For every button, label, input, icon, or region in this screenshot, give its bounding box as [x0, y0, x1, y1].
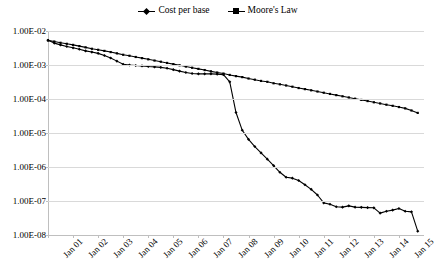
series-marker: [360, 206, 363, 209]
series-marker: [166, 62, 168, 64]
gridline: [48, 235, 424, 236]
x-axis-tick-label: Jan 01: [62, 237, 85, 260]
series-marker: [222, 72, 224, 74]
gridline: [48, 99, 424, 100]
x-axis-tick-label: Jan 08: [237, 237, 260, 260]
x-axis-tick-label: Jan 06: [187, 237, 210, 260]
legend-marker-square-icon: [228, 7, 245, 16]
series-marker: [159, 66, 162, 69]
series-marker: [110, 51, 112, 53]
legend-label-cost-per-base: Cost per base: [158, 6, 209, 16]
series-marker: [235, 75, 237, 77]
series-marker: [191, 67, 193, 69]
series-marker: [410, 210, 413, 213]
plot-area: [48, 31, 424, 235]
series-marker: [78, 45, 80, 47]
series-marker: [216, 71, 218, 73]
series-marker: [65, 45, 68, 48]
series-marker: [153, 59, 155, 61]
series-marker: [404, 210, 407, 213]
x-axis-tick: [123, 235, 124, 238]
chart-legend: Cost per base Moore's Law: [0, 3, 436, 19]
x-axis-tick-label: Jan 07: [212, 237, 235, 260]
series-marker: [234, 111, 237, 114]
series-marker: [160, 61, 162, 63]
x-axis-tick-label: Jan 04: [137, 237, 160, 260]
x-axis-labels: Jan 01Jan 02Jan 03Jan 04Jan 05Jan 06Jan …: [48, 237, 424, 279]
y-axis-tick-label: 1.00E-02: [2, 27, 46, 36]
x-axis-tick: [73, 235, 74, 238]
series-marker: [128, 55, 130, 57]
series-marker: [335, 94, 337, 96]
series-marker: [310, 89, 312, 91]
series-marker: [178, 70, 181, 73]
series-marker: [291, 86, 293, 88]
x-axis-tick: [223, 235, 224, 238]
series-marker: [397, 207, 400, 210]
x-axis-tick-label: Jan 13: [363, 237, 386, 260]
legend-item-moores-law: Moore's Law: [228, 6, 298, 16]
x-axis-tick-label: Jan 14: [388, 237, 411, 260]
x-axis-tick: [274, 235, 275, 238]
x-axis-tick-label: Jan 09: [262, 237, 285, 260]
series-marker: [116, 52, 118, 54]
series-marker: [354, 206, 357, 209]
legend-marker-diamond-icon: [138, 7, 155, 16]
series-marker: [103, 54, 106, 57]
series-marker: [209, 72, 212, 75]
y-axis-labels: 1.00E-021.00E-031.00E-041.00E-051.00E-06…: [0, 31, 46, 235]
series-marker: [366, 206, 369, 209]
y-axis-tick-label: 1.00E-03: [2, 61, 46, 70]
series-marker: [84, 49, 87, 52]
x-axis-tick-label: Jan 10: [287, 237, 310, 260]
series-marker: [285, 84, 287, 86]
x-axis-tick-label: Jan 15: [413, 237, 436, 260]
series-marker: [78, 48, 81, 51]
x-axis-tick-label: Jan 05: [162, 237, 185, 260]
series-marker: [203, 72, 206, 75]
x-axis-tick: [48, 235, 49, 238]
series-marker: [291, 177, 294, 180]
series-marker: [97, 52, 100, 55]
series-marker: [329, 93, 331, 95]
series-marker: [385, 210, 388, 213]
x-axis-tick: [148, 235, 149, 238]
series-marker: [328, 203, 331, 206]
series-marker: [298, 87, 300, 89]
series-marker: [398, 106, 400, 108]
series-marker: [385, 104, 387, 106]
gridline: [48, 65, 424, 66]
series-marker: [59, 42, 61, 44]
series-marker: [197, 68, 199, 70]
x-axis-tick-label: Jan 03: [112, 237, 135, 260]
x-axis-tick: [249, 235, 250, 238]
x-axis-tick: [198, 235, 199, 238]
legend-item-cost-per-base: Cost per base: [138, 6, 209, 16]
series-marker: [341, 206, 344, 209]
series-marker: [166, 67, 169, 70]
series-marker: [379, 102, 381, 104]
series-marker: [210, 70, 212, 72]
series-marker: [241, 76, 243, 78]
x-axis-tick: [349, 235, 350, 238]
x-axis-tick: [98, 235, 99, 238]
series-marker: [91, 48, 93, 50]
series-line-cost-per-base: [48, 40, 418, 231]
series-marker: [323, 92, 325, 94]
series-marker: [147, 58, 149, 60]
series-marker: [416, 230, 419, 233]
series-marker: [204, 69, 206, 71]
series-marker: [316, 90, 318, 92]
series-marker: [417, 112, 419, 114]
gridline: [48, 31, 424, 32]
series-marker: [410, 109, 412, 111]
y-axis-tick-label: 1.00E-04: [2, 95, 46, 104]
series-marker: [341, 95, 343, 97]
series-marker: [367, 100, 369, 102]
series-marker: [141, 57, 143, 59]
series-marker: [72, 46, 75, 49]
y-axis-tick-label: 1.00E-06: [2, 163, 46, 172]
series-marker: [191, 72, 194, 75]
series-marker: [184, 71, 187, 74]
legend-label-moores-law: Moore's Law: [248, 6, 298, 16]
